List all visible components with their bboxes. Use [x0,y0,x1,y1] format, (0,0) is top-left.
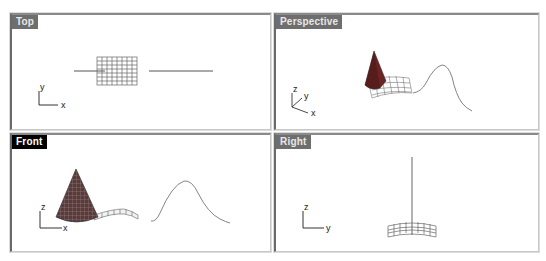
axis-z-label: z [304,202,309,212]
axis-z-label: z [293,84,298,94]
front-view-canvas: z x [12,135,271,251]
viewport-top[interactable]: Top y x [10,13,271,130]
cone [56,169,98,222]
axis-x-label: x [61,100,66,110]
axis-icon-top [39,91,58,105]
viewport-front[interactable]: Front z x [10,133,271,252]
axis-z-label: z [41,202,46,212]
bell-curve [151,181,230,223]
axis-x-label: x [63,223,68,233]
axis-y-label: y [326,223,331,233]
axis-y-label: y [304,91,309,101]
axis-y-label: y [40,82,45,92]
axis-x-label: x [311,108,316,118]
perspective-view-canvas: z y x [276,15,539,129]
viewport-perspective[interactable]: Perspective z y x [274,13,539,130]
top-view-canvas: y x [12,15,271,129]
right-view-canvas: z y [276,135,539,251]
surface-strip [94,209,138,220]
bell-curve [413,65,472,111]
viewport-right[interactable]: Right z y [274,133,539,252]
axis-icon-right [303,211,324,228]
